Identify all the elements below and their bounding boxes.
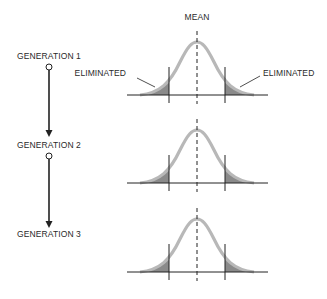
generation-1-label: GENERATION 1 — [17, 51, 81, 61]
eliminated-left-pointer — [137, 78, 155, 87]
generation-2-label: GENERATION 2 — [17, 140, 81, 150]
generation-2-node-icon — [46, 153, 52, 159]
generation-3-label: GENERATION 3 — [17, 229, 81, 239]
arrow-down-icon — [46, 221, 53, 228]
generation-timeline: GENERATION 1 GENERATION 2 GENERATION 3 — [17, 51, 81, 239]
eliminated-right-label: ELIMINATED — [263, 68, 314, 78]
eliminated-left-label: ELIMINATED — [75, 68, 126, 78]
distribution-generation-2 — [127, 119, 268, 192]
mean-label: MEAN — [185, 12, 210, 22]
eliminated-right-pointer — [240, 76, 260, 87]
stabilizing-selection-diagram: MEAN GENERATION 1 GENERATION 2 GENERATIO… — [0, 0, 327, 299]
generation-1-node-icon — [46, 64, 52, 70]
arrow-down-icon — [46, 130, 53, 137]
distribution-generation-1: ELIMINATED ELIMINATED — [75, 31, 315, 104]
distribution-generation-3 — [127, 208, 268, 281]
